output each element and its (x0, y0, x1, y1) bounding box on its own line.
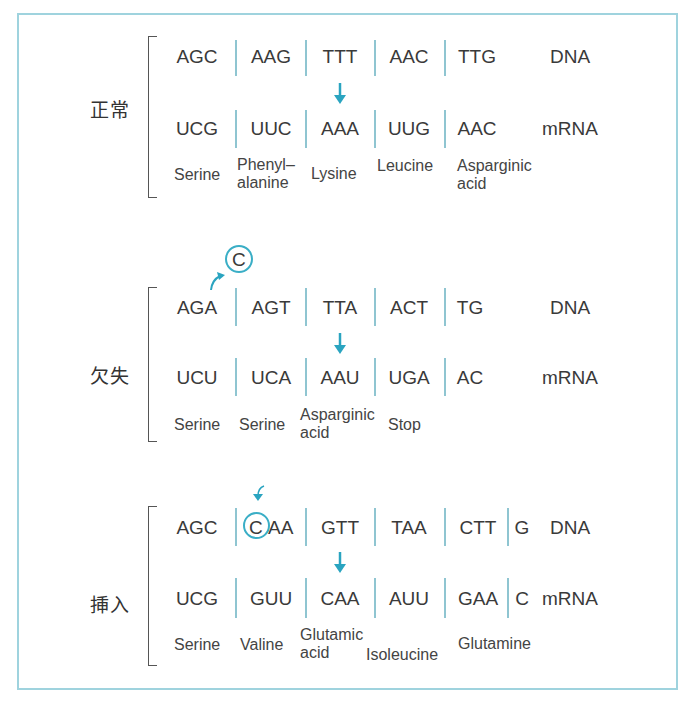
amino-acid: Serine (174, 166, 220, 184)
dna-codon: TTT (311, 46, 369, 68)
dna-codon: TTG (452, 46, 502, 68)
amino-acid: Phenyl– alanine (237, 156, 295, 192)
dna-codon: ACT (380, 297, 438, 319)
dna-codon: AGT (242, 297, 300, 319)
mrna-codon: UCG (168, 118, 226, 140)
dna-codon: G (513, 517, 531, 539)
mrna-codon: UUG (380, 118, 438, 140)
separator (305, 578, 307, 618)
bracket (148, 287, 157, 442)
separator (235, 40, 237, 76)
separator (444, 110, 446, 148)
dna-tag: DNA (540, 46, 600, 68)
amino-acid: Asparginic acid (300, 406, 375, 442)
mrna-codon: AAC (452, 118, 502, 140)
dna-codon: TTA (311, 297, 369, 319)
amino-acid: Glutamic acid (300, 626, 363, 662)
separator (235, 358, 237, 396)
separator (444, 508, 446, 546)
mrna-codon: GUU (242, 588, 300, 610)
mrna-tag: mRNA (535, 118, 605, 140)
separator (235, 110, 237, 148)
curved-arrow-icon (208, 268, 232, 292)
dna-codon: AAG (242, 46, 300, 68)
separator (235, 508, 237, 546)
mrna-codon: GAA (450, 588, 506, 610)
separator (444, 288, 446, 326)
dna-codon: GTT (311, 517, 369, 539)
mrna-tag: mRNA (535, 367, 605, 389)
curved-arrow-icon (248, 484, 268, 504)
separator (444, 40, 446, 76)
dna-codon: TG (452, 297, 488, 319)
deleted-base: C (232, 249, 246, 271)
down-arrow-icon (330, 551, 350, 575)
separator (305, 110, 307, 148)
separator (374, 508, 376, 546)
amino-acid: Serine (239, 416, 285, 434)
mrna-codon: AUU (380, 588, 438, 610)
separator (305, 358, 307, 396)
mrna-codon: UCA (242, 367, 300, 389)
separator (444, 578, 446, 618)
separator (305, 40, 307, 76)
amino-acid: Stop (388, 416, 421, 434)
dna-codon: AA (268, 517, 302, 539)
down-arrow-icon (330, 332, 350, 356)
amino-acid: Lysine (311, 165, 357, 183)
dna-codon: AGC (168, 46, 226, 68)
separator (374, 578, 376, 618)
separator (507, 508, 509, 546)
mrna-codon: AC (452, 367, 488, 389)
amino-acid: Isoleucine (366, 646, 438, 664)
bracket (148, 506, 157, 666)
mrna-codon: AAU (311, 367, 369, 389)
dna-codon: CTT (450, 517, 506, 539)
separator (444, 358, 446, 396)
amino-acid: Valine (240, 636, 283, 654)
bracket (148, 36, 157, 198)
amino-acid: Serine (174, 416, 220, 434)
dna-codon: AGC (168, 517, 226, 539)
dna-codon: AAC (380, 46, 438, 68)
separator (235, 288, 237, 326)
amino-acid: Leucine (377, 157, 433, 175)
separator (305, 288, 307, 326)
dna-codon: AGA (168, 297, 226, 319)
separator (374, 288, 376, 326)
section-label: 正常 (90, 95, 130, 122)
inserted-base: C (249, 517, 263, 539)
mrna-codon: CAA (311, 588, 369, 610)
separator (374, 358, 376, 396)
mrna-codon: AAA (311, 118, 369, 140)
amino-acid: Serine (174, 636, 220, 654)
separator (374, 40, 376, 76)
dna-tag: DNA (540, 297, 600, 319)
separator (374, 110, 376, 148)
amino-acid: Glutamine (458, 635, 531, 653)
mrna-codon: UGA (380, 367, 438, 389)
mrna-codon: UCG (168, 588, 226, 610)
dna-codon: TAA (380, 517, 438, 539)
separator (235, 578, 237, 618)
down-arrow-icon (330, 82, 350, 106)
mrna-codon: UUC (242, 118, 300, 140)
mrna-codon: C (513, 588, 531, 610)
separator (507, 578, 509, 618)
separator (305, 508, 307, 546)
mrna-codon: UCU (168, 367, 226, 389)
section-label: 挿入 (90, 590, 130, 617)
dna-tag: DNA (540, 517, 600, 539)
mrna-tag: mRNA (538, 588, 602, 610)
section-label: 欠失 (90, 361, 130, 388)
amino-acid: Asparginic acid (457, 157, 532, 193)
